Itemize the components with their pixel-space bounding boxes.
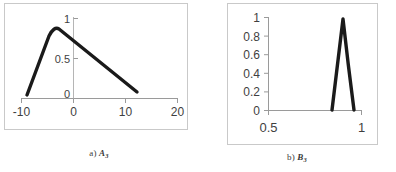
panel-a-data-line (27, 28, 137, 95)
panel-b-caption-prefix: b) (287, 152, 295, 162)
panel-b-xlabel-0: 0.5 (259, 120, 277, 135)
panel-b-chart: 1 0.8 0.6 0.4 0.2 0 0.5 1 (198, 0, 396, 150)
panel-b-caption: b) B3 (198, 152, 396, 163)
panel-a-xlabel-1: 0 (70, 105, 77, 119)
panel-b-ylabel-5: 0 (253, 104, 260, 118)
panel-b-xlabel-1: 1 (358, 120, 365, 135)
panel-b-ylabel-1: 0.8 (243, 30, 260, 44)
panel-a-xlabel-2: 10 (119, 105, 133, 119)
panel-b-ylabel-2: 0.6 (243, 48, 260, 62)
panel-a-caption-prefix: a) (89, 148, 96, 158)
panel-a-ylabel-2: 0 (64, 88, 70, 100)
panel-b-caption-sub: 3 (304, 156, 307, 163)
panel-a-ylabel-1: 0.5 (55, 53, 70, 65)
panel-b-data-line (332, 19, 354, 110)
panel-b-ylabel-3: 0.4 (243, 67, 260, 81)
panel-a-caption: a) A3 (0, 148, 198, 159)
panel-a: -10 0 10 20 1 0.5 0 a) A3 (0, 0, 198, 172)
panel-a-xlabel-0: -10 (13, 105, 31, 119)
panel-b-ylabel-4: 0.2 (243, 85, 260, 99)
panel-a-ylabel-0: 1 (64, 13, 70, 25)
panel-a-xlabel-3: 20 (171, 105, 185, 119)
figure-container: -10 0 10 20 1 0.5 0 a) A3 (0, 0, 396, 172)
panel-a-chart: -10 0 10 20 1 0.5 0 (0, 0, 198, 140)
panel-b-ylabel-0: 1 (253, 11, 260, 25)
panel-b: 1 0.8 0.6 0.4 0.2 0 0.5 1 b) B3 (198, 0, 396, 172)
panel-a-caption-sub: 3 (105, 152, 108, 159)
